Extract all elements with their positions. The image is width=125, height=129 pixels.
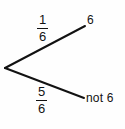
probability-tree-diagram: 1 6 5 6 6 not 6 [0, 0, 125, 129]
probability-fraction-top: 1 6 [37, 13, 48, 43]
outcome-label-bottom: not 6 [86, 92, 114, 104]
fraction-numerator-top: 1 [38, 13, 47, 26]
fraction-numerator-bottom: 5 [37, 85, 46, 98]
tree-branches-svg [0, 0, 125, 129]
fraction-denominator-bottom: 6 [37, 102, 46, 115]
outcome-label-top: 6 [87, 14, 94, 26]
probability-fraction-bottom: 5 6 [36, 85, 47, 115]
fraction-denominator-top: 6 [38, 30, 47, 43]
